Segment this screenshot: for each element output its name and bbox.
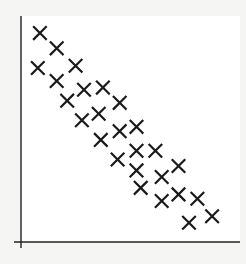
- scatter-plot: [0, 0, 246, 264]
